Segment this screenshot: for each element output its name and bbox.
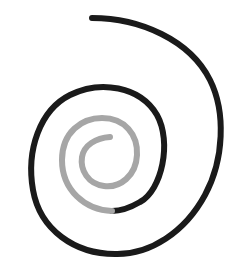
inner-spiral-segment	[62, 118, 137, 211]
outer-spiral-segment	[31, 18, 221, 254]
spiral-svg	[0, 0, 240, 272]
spiral-diagram	[0, 0, 240, 272]
